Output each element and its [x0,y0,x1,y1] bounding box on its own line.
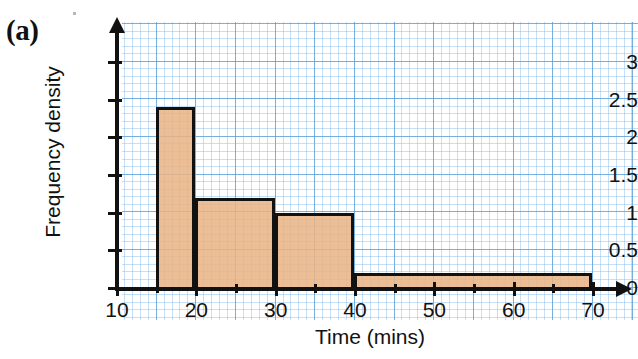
histogram-bar [275,213,354,291]
histogram-bar [156,107,196,291]
y-axis-tick [108,99,122,102]
x-axis-tick-label: 60 [484,298,544,322]
x-axis-minor-tick [473,284,476,293]
x-axis-tick-label: 20 [166,298,226,322]
x-axis-minor-tick [394,284,397,293]
y-axis-tick-label: 2.5 [542,88,638,112]
x-axis-tick [433,282,436,296]
x-axis-minor-tick [314,284,317,293]
x-axis-tick-label: 50 [404,298,464,322]
y-axis-tick-label: 0.5 [542,238,638,262]
x-axis-minor-tick [156,284,159,293]
y-axis-title: Frequency density [41,37,65,267]
x-axis-tick-label: 70 [563,298,623,322]
y-axis-tick-label: 1.5 [542,163,638,187]
x-axis-minor-tick [552,284,555,293]
x-axis-tick [195,282,198,296]
y-axis-tick-label: 1 [542,201,638,225]
histogram-bar [195,198,274,291]
x-axis-tick [354,282,357,296]
y-axis-tick-label: 3 [542,50,638,74]
plot-area: 0 0.5 1 1.5 2 2.5 3 10 20 30 40 50 60 70… [0,0,638,359]
y-axis-tick [108,287,122,290]
x-axis-tick-label: 40 [325,298,385,322]
x-axis-tick-label: 10 [87,298,147,322]
y-axis-tick [108,249,122,252]
x-axis-tick [513,282,516,296]
y-axis-tick-label: 0 [542,276,638,300]
x-axis-minor-tick [235,284,238,293]
x-axis-tick [275,282,278,296]
x-axis-tick [592,282,595,296]
x-axis-title: Time (mins) [180,325,560,349]
y-axis-tick-label: 2 [542,125,638,149]
y-axis-arrowhead [109,17,125,33]
y-axis-tick [108,136,122,139]
x-axis-tick-label: 30 [246,298,306,322]
y-axis-tick [108,61,122,64]
x-axis-tick [116,282,119,296]
histogram-figure: (a) 0 0.5 1 1.5 2 2.5 3 [0,0,638,359]
y-axis-tick [108,212,122,215]
y-axis-tick [108,174,122,177]
